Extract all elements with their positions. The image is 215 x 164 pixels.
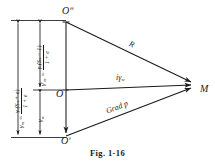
figure-container: Oʺ O Oʹ M R iγw Grad p γm = γₐ(Sₛ + e) 1…: [0, 0, 215, 164]
vector-lines: [66, 22, 191, 136]
gamma-m-denominator: 1 + e: [21, 88, 29, 113]
vector-label-igw-subscript: w: [121, 77, 124, 82]
vector-label-igw: iγw: [116, 74, 125, 82]
gamma-m-prime-denominator: 1 + e: [43, 45, 51, 71]
dimension-label-gamma-m-prime-lhs: γʹm: [39, 79, 47, 86]
dimension-label-gamma-m-fraction: γₐ(Sₛ + e) 1 + e: [14, 88, 28, 113]
dimension-label-gamma-m-prime: γʹm = γₐ(Sₛ − 1) 1 + e: [36, 45, 50, 86]
gamma-m-prime-numerator: γₐ(Sₛ − 1): [36, 45, 43, 71]
vector-diagram: [0, 0, 215, 164]
dimension-label-gamma-w: γw: [36, 116, 44, 122]
gamma-m-numerator: γₐ(Sₛ + e): [14, 88, 21, 113]
vector-line-gradp: [66, 88, 191, 136]
point-label-m: M: [200, 84, 208, 94]
point-label-o-double-prime: Oʺ: [62, 6, 73, 16]
dimension-label-gamma-m: γm = γₐ(Sₛ + e) 1 + e: [14, 88, 28, 128]
figure-caption: Fig. 1-16: [0, 148, 215, 158]
dimension-label-gamma-m-lhs: γm: [17, 122, 25, 128]
dimension-label-gamma-m-prime-equals: =: [39, 72, 47, 77]
dimension-label-gamma-m-prime-fraction: γₐ(Sₛ − 1) 1 + e: [36, 45, 50, 71]
dimension-label-gamma-m-equals: =: [17, 116, 25, 121]
vector-line-igw: [66, 85, 191, 90]
vector-line-R: [66, 22, 191, 82]
dimension-label-gamma-w-lhs: γw: [36, 116, 44, 122]
point-label-o-prime: Oʹ: [61, 136, 70, 146]
point-label-o-origin: O: [56, 89, 63, 99]
